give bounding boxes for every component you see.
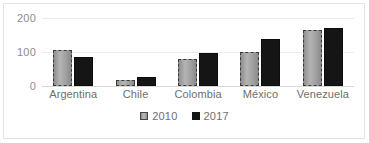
gridline-0: 0 bbox=[42, 86, 354, 87]
bar-group-mexico bbox=[229, 18, 291, 86]
bar-venezuela-2010 bbox=[303, 30, 322, 86]
bar-chart: 200 100 0 bbox=[0, 0, 369, 143]
bar-argentina-2017 bbox=[74, 57, 93, 86]
legend-item-2010: 2010 bbox=[140, 110, 177, 122]
y-tick-label-0: 0 bbox=[30, 80, 36, 92]
category-label-argentina: Argentina bbox=[42, 88, 104, 100]
y-tick-label-200: 200 bbox=[17, 12, 36, 24]
bar-colombia-2010 bbox=[178, 59, 197, 86]
legend-swatch-2017-icon bbox=[192, 112, 200, 120]
category-label-colombia: Colombia bbox=[167, 88, 229, 100]
bar-groups bbox=[42, 18, 354, 86]
category-axis: Argentina Chile Colombia México Venezuel… bbox=[42, 88, 354, 100]
bar-colombia-2017 bbox=[199, 53, 218, 86]
bar-group-chile bbox=[104, 18, 166, 86]
bar-venezuela-2017 bbox=[324, 28, 343, 86]
bar-group-colombia bbox=[167, 18, 229, 86]
legend-label-2010: 2010 bbox=[152, 110, 177, 122]
bar-mexico-2010 bbox=[240, 52, 259, 86]
category-label-venezuela: Venezuela bbox=[292, 88, 354, 100]
category-label-mexico: México bbox=[229, 88, 291, 100]
bar-argentina-2010 bbox=[53, 50, 72, 86]
bar-group-argentina bbox=[42, 18, 104, 86]
bar-chile-2017 bbox=[137, 77, 156, 86]
legend-item-2017: 2017 bbox=[192, 110, 229, 122]
legend-swatch-2010-icon bbox=[140, 112, 148, 120]
y-tick-label-100: 100 bbox=[17, 46, 36, 58]
bar-group-venezuela bbox=[292, 18, 354, 86]
legend-label-2017: 2017 bbox=[204, 110, 229, 122]
bar-mexico-2017 bbox=[261, 39, 280, 86]
plot-area: 200 100 0 bbox=[42, 18, 354, 86]
bar-chile-2010 bbox=[116, 80, 135, 86]
chart-legend: 2010 2017 bbox=[0, 110, 369, 122]
category-label-chile: Chile bbox=[104, 88, 166, 100]
